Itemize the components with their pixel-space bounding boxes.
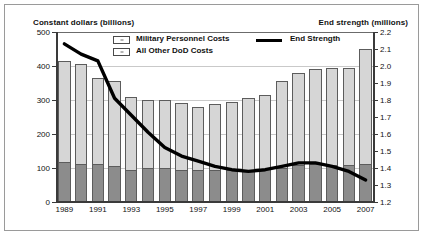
right-axis-tick xyxy=(374,202,378,203)
legend-swatch-end-strength xyxy=(256,39,282,42)
left-axis-tick xyxy=(52,66,56,67)
right-axis-tick xyxy=(374,32,378,33)
x-axis-tick-label: 1993 xyxy=(122,205,140,214)
chart-frame: Constant dollars (billions) End strength… xyxy=(4,4,419,231)
right-axis-tick xyxy=(374,151,378,152)
legend-label-other: All Other DoD Costs xyxy=(136,46,213,55)
left-axis-tick xyxy=(52,100,56,101)
right-axis-tick-label: 1.7 xyxy=(380,113,391,122)
legend-label-military: Military Personnel Costs xyxy=(136,34,229,43)
right-axis-tick-label: 1.5 xyxy=(380,147,391,156)
right-axis-tick-label: 1.6 xyxy=(380,130,391,139)
right-axis-tick-label: 1.8 xyxy=(380,96,391,105)
left-axis-tick-label: 400 xyxy=(37,62,50,71)
right-axis-tick xyxy=(374,66,378,67)
plot-area: 0100200300400500 1.21.31.41.51.61.71.81.… xyxy=(56,32,374,202)
left-axis-tick-label: 300 xyxy=(37,96,50,105)
right-axis-tick xyxy=(374,100,378,101)
x-axis-tick-label: 1991 xyxy=(89,205,107,214)
x-axis xyxy=(56,201,375,203)
left-axis-tick xyxy=(52,134,56,135)
x-axis-tick-label: 1997 xyxy=(189,205,207,214)
legend-label-end-strength: End Strength xyxy=(290,34,340,43)
left-axis-tick xyxy=(52,202,56,203)
left-axis-tick-label: 200 xyxy=(37,130,50,139)
right-axis-title: End strength (millions) xyxy=(319,18,408,27)
x-axis-tick-label: 2001 xyxy=(256,205,274,214)
right-axis-tick-label: 2.1 xyxy=(380,45,391,54)
x-axis-tick-label: 1999 xyxy=(223,205,241,214)
right-axis-tick xyxy=(374,168,378,169)
left-axis-title: Constant dollars (billions) xyxy=(33,18,134,27)
x-axis-tick-label: 1995 xyxy=(156,205,174,214)
right-axis-tick xyxy=(374,49,378,50)
left-axis-tick-label: 0 xyxy=(46,198,50,207)
legend-swatch-military xyxy=(113,36,130,44)
x-axis-tick-label: 2007 xyxy=(357,205,375,214)
right-axis-tick-label: 2.2 xyxy=(380,28,391,37)
right-axis-tick xyxy=(374,117,378,118)
right-axis-tick xyxy=(374,83,378,84)
x-axis-tick-label: 2005 xyxy=(323,205,341,214)
left-axis-tick xyxy=(52,168,56,169)
right-axis-tick-label: 1.2 xyxy=(380,198,391,207)
x-axis-tick-label: 1989 xyxy=(55,205,73,214)
right-axis-tick xyxy=(374,134,378,135)
right-axis-tick-label: 1.4 xyxy=(380,164,391,173)
left-axis-tick-label: 100 xyxy=(37,164,50,173)
x-axis-tick-label: 2003 xyxy=(290,205,308,214)
chart-legend: Military Personnel Costs All Other DoD C… xyxy=(56,32,374,62)
right-axis-tick-label: 1.3 xyxy=(380,181,391,190)
right-axis-tick-label: 2.0 xyxy=(380,62,391,71)
legend-swatch-other xyxy=(113,48,130,56)
right-axis-tick xyxy=(374,185,378,186)
left-axis-tick-label: 500 xyxy=(37,28,50,37)
chart-screenshot: Constant dollars (billions) End strength… xyxy=(0,0,425,237)
right-axis-tick-label: 1.9 xyxy=(380,79,391,88)
